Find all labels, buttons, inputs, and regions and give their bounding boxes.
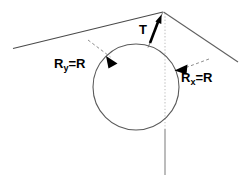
radius-x-value: R bbox=[203, 70, 212, 85]
radius-x-label: Rx=R bbox=[181, 71, 212, 84]
tension-label: T bbox=[139, 23, 147, 36]
radius-y-equals: = bbox=[68, 56, 76, 71]
rx-leader-dashed bbox=[186, 59, 209, 68]
ry-leader-dashed bbox=[88, 40, 111, 57]
ry-arrowhead-icon bbox=[106, 56, 118, 69]
roof-line-right bbox=[164, 12, 239, 62]
tangent-circle bbox=[93, 44, 179, 130]
tension-arrow-icon bbox=[150, 15, 162, 44]
radius-x-symbol: R bbox=[181, 70, 190, 85]
geometry-figure: T Ry=R Rx=R bbox=[0, 0, 249, 176]
tension-symbol: T bbox=[139, 22, 147, 37]
radius-x-subscript: x bbox=[190, 77, 195, 87]
radius-y-subscript: y bbox=[63, 63, 68, 73]
figure-canvas bbox=[0, 0, 249, 176]
radius-y-label: Ry=R bbox=[54, 57, 85, 70]
radius-x-equals: = bbox=[195, 70, 203, 85]
radius-y-value: R bbox=[76, 56, 85, 71]
radius-y-symbol: R bbox=[54, 56, 63, 71]
